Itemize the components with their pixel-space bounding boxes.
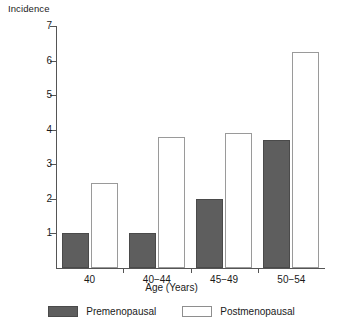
y-tick-label: 3: [46, 159, 52, 169]
y-axis-title: Incidence: [8, 3, 50, 14]
legend-swatch-premenopausal: [48, 306, 78, 317]
y-tick-label: 7: [46, 21, 52, 31]
x-group-separator: [258, 268, 259, 273]
legend-swatch-postmenopausal: [182, 306, 212, 317]
plot-area: 1234567 4040−4445−4950−54: [56, 26, 325, 268]
bar-premenopausal-0: [62, 233, 89, 268]
legend-item-premenopausal: Premenopausal: [48, 306, 156, 317]
incidence-bar-chart: Incidence 1234567 4040−4445−4950−54 Age …: [0, 0, 343, 330]
y-tick-label: 6: [46, 56, 52, 66]
legend-label-postmenopausal: Postmenopausal: [220, 306, 295, 317]
bar-postmenopausal-0: [91, 183, 118, 268]
bar-premenopausal-2: [196, 199, 223, 268]
y-tick-label: 4: [46, 125, 52, 135]
bar-postmenopausal-2: [225, 133, 252, 268]
chart-legend: Premenopausal Postmenopausal: [0, 306, 343, 317]
bar-premenopausal-3: [263, 140, 290, 268]
x-group-separator: [191, 268, 192, 273]
y-tick-label: 1: [46, 228, 52, 238]
legend-label-premenopausal: Premenopausal: [86, 306, 156, 317]
y-tick-label: 5: [46, 90, 52, 100]
x-axis-title: Age (Years): [0, 282, 343, 293]
y-tick-label: 2: [46, 194, 52, 204]
y-axis-line: [56, 26, 57, 268]
legend-item-postmenopausal: Postmenopausal: [182, 306, 295, 317]
x-group-separator: [123, 268, 124, 273]
bar-premenopausal-1: [129, 233, 156, 268]
bar-postmenopausal-1: [158, 137, 185, 268]
bar-postmenopausal-3: [292, 52, 319, 268]
